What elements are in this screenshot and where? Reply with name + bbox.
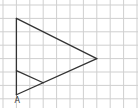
grid: [0, 0, 138, 108]
grid-diagram: A: [0, 0, 138, 108]
point-label-a: A: [14, 96, 20, 105]
